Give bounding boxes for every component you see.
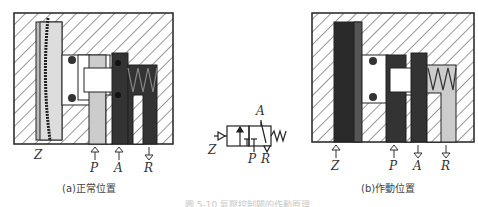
right-port-a-label: A xyxy=(413,159,422,173)
left-valve-body xyxy=(14,13,173,144)
symbol-port-a-label: A xyxy=(256,104,265,118)
figure-caption: 圖 5-10 氣壓控制閥的作動原理 xyxy=(185,198,310,207)
right-caption: (b)作動位置 xyxy=(361,180,415,195)
left-port-a-label: A xyxy=(114,161,123,175)
right-port-arrows xyxy=(332,145,450,158)
symbol-port-r-label: R xyxy=(261,152,270,166)
left-port-arrows xyxy=(91,147,153,160)
right-port-r-label: R xyxy=(441,159,450,173)
symbol-port-p-label: P xyxy=(248,152,256,166)
symbol-port-z-label: Z xyxy=(208,143,216,157)
left-port-r-label: R xyxy=(144,161,153,175)
valve-symbol xyxy=(214,120,286,152)
left-port-z-label: Z xyxy=(34,148,42,162)
right-port-z-label: Z xyxy=(331,159,339,173)
left-caption: (a)正常位置 xyxy=(62,180,116,195)
valve-diagrams xyxy=(0,0,478,207)
right-port-p-label: P xyxy=(389,159,397,173)
left-port-p-label: P xyxy=(90,161,98,175)
right-valve-body xyxy=(312,13,474,142)
